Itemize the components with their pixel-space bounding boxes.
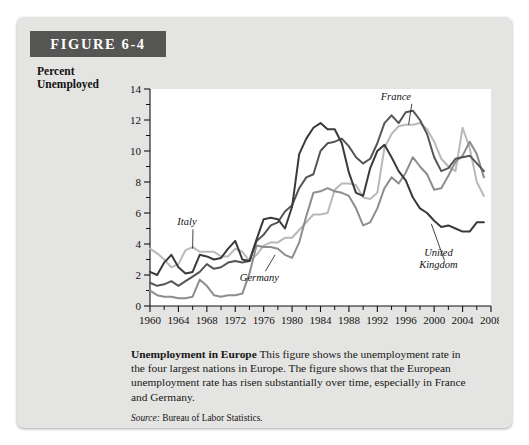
series-label-france: France: [380, 91, 412, 102]
figure-panel: FIGURE 6-4 Percent Unemployed 0246810121…: [17, 17, 512, 428]
plot-background: [150, 89, 491, 306]
x-tick-label: 1968: [196, 314, 219, 324]
unemployment-line-chart: 0246810121419601964196819721976198019841…: [113, 52, 499, 324]
x-tick-label: 1992: [366, 314, 388, 324]
figure-number-label: FIGURE 6-4: [50, 36, 145, 53]
x-tick-label: 1964: [167, 314, 190, 324]
y-tick-label: 6: [136, 207, 142, 219]
caption-paragraph: Unemployment in Europe This figure shows…: [131, 347, 477, 404]
series-label-germany: Germany: [240, 272, 279, 283]
source-value: Bureau of Labor Statistics.: [160, 413, 263, 423]
x-tick-label: 1972: [224, 314, 246, 324]
y-tick-label: 4: [136, 238, 142, 250]
chart-svg: 0246810121419601964196819721976198019841…: [113, 52, 499, 324]
x-tick-label: 1988: [338, 314, 361, 324]
y-tick-label: 8: [136, 176, 142, 188]
y-tick-label: 0: [136, 300, 142, 312]
x-tick-label: 1980: [281, 314, 304, 324]
y-tick-label: 12: [130, 114, 141, 126]
y-tick-label: 10: [130, 145, 142, 157]
x-tick-label: 2000: [423, 314, 446, 324]
series-label-united-kingdom: Kingdom: [418, 259, 458, 270]
series-label-italy: Italy: [176, 216, 197, 227]
caption-title: Unemployment in Europe: [131, 348, 257, 360]
source-line: Source: Bureau of Labor Statistics.: [131, 413, 477, 423]
y-tick-label: 14: [130, 83, 142, 95]
x-tick-label: 2008: [480, 314, 499, 324]
caption-block: Unemployment in Europe This figure shows…: [131, 347, 477, 423]
series-label-united-kingdom: United: [424, 247, 453, 258]
x-tick-label: 1960: [139, 314, 162, 324]
x-tick-label: 2004: [452, 314, 475, 324]
y-axis-title: Percent Unemployed: [37, 65, 99, 91]
x-tick-label: 1976: [253, 314, 276, 324]
y-tick-label: 2: [136, 269, 142, 281]
x-tick-label: 1996: [395, 314, 418, 324]
x-tick-label: 1984: [310, 314, 333, 324]
source-label: Source:: [131, 413, 160, 423]
